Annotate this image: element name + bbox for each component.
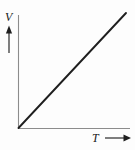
- plot-area: [0, 0, 135, 150]
- y-axis-label: V: [5, 11, 12, 23]
- x-axis-label: T: [92, 132, 99, 144]
- data-line-v-vs-t: [19, 13, 127, 128]
- up-arrow-icon: [6, 26, 12, 54]
- right-arrow-icon: [105, 135, 131, 142]
- figure-container: V T: [0, 0, 135, 150]
